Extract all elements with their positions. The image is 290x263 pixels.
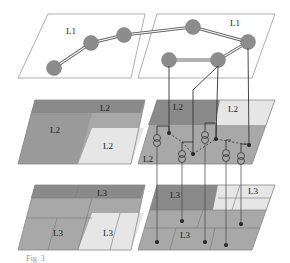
layer-1: L1 L1 [18,14,275,78]
l2-label: L2 [50,125,60,135]
l3-label: L3 [97,188,107,198]
l1-plane-left [18,14,145,78]
node-icon [84,36,99,51]
l1-label-left: L1 [66,26,76,36]
l2-label: L2 [103,141,113,151]
l1-label-right: L1 [230,18,240,28]
l2-label: L2 [143,154,153,164]
figure-caption: Fig. 3 [26,254,45,263]
l3-label: L3 [103,228,113,238]
l2-label: L2 [100,103,110,113]
l2-label: L2 [228,104,238,114]
node-icon [117,28,132,43]
layer-3: L3 L3 L3 L3 L3 L3 [18,185,275,250]
l3-label: L3 [180,230,190,240]
node-icon [186,20,201,35]
l3-label: L3 [170,190,180,200]
node-icon [211,53,226,68]
node-icon [47,61,62,76]
l3-label: L3 [248,186,258,196]
three-layer-diagram: L1 L1 L2 L2 L2 [0,0,290,263]
layer-2: L2 L2 L2 L2 L2 L2 [18,100,275,165]
node-icon [162,53,177,68]
l3-label: L3 [53,228,63,238]
l2-label: L2 [173,102,183,112]
node-icon [241,35,256,50]
